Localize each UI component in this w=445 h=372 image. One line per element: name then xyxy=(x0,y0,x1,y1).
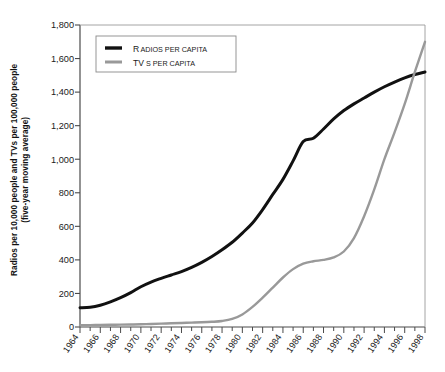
y-axis-tick-label: 600 xyxy=(59,222,74,232)
x-axis-tick-label: 1986 xyxy=(284,332,304,354)
legend-label-radios-first: R xyxy=(133,44,139,54)
x-axis-tick-label: 1980 xyxy=(223,332,243,354)
x-axis-tick-label: 1996 xyxy=(386,332,406,354)
x-axis-tick-label: 1990 xyxy=(325,332,345,354)
data-series-group xyxy=(80,42,425,326)
x-axis-tick-label: 1992 xyxy=(345,332,365,354)
series-line-tvs-per-capita xyxy=(80,42,425,326)
y-axis-tick-label: 1,000 xyxy=(51,155,74,165)
legend-label-tvs: S PER CAPITA xyxy=(146,59,195,68)
x-axis-tick-label: 1972 xyxy=(142,332,162,354)
x-axis-tick-label: 1982 xyxy=(244,332,264,354)
x-axis-tick-label: 1998 xyxy=(406,332,426,354)
x-axis-tick-label: 1966 xyxy=(81,332,101,354)
line-chart-plot: 02004006008001,0001,2001,4001,6001,800 1… xyxy=(0,0,445,372)
chart-legend: R ADIOS PER CAPITA TV S PER CAPITA xyxy=(96,36,236,72)
y-axis-tick-label: 800 xyxy=(59,188,74,198)
y-axis-tick-label: 0 xyxy=(69,322,74,332)
x-axis-tick-label: 1994 xyxy=(365,332,385,354)
y-axis-tick-marks xyxy=(75,25,80,327)
x-axis-tick-label: 1984 xyxy=(264,332,284,354)
x-axis-tick-label: 1964 xyxy=(61,332,81,354)
y-axis-tick-label: 400 xyxy=(59,255,74,265)
y-axis-tick-label: 1,800 xyxy=(51,20,74,30)
y-axis-label-line2: (five-year moving average) xyxy=(21,64,32,276)
y-axis-label: Radios per 10,000 people and TVs per 100… xyxy=(4,0,38,340)
y-axis-label-line1: Radios per 10,000 people and TVs per 100… xyxy=(10,64,19,276)
x-axis-tick-label: 1976 xyxy=(183,332,203,354)
y-axis-tick-label: 1,600 xyxy=(51,54,74,64)
y-axis-tick-label: 1,200 xyxy=(51,121,74,131)
x-axis-tick-label: 1968 xyxy=(102,332,122,354)
x-axis-tick-labels: 1964196619681970197219741976197819801982… xyxy=(61,332,426,354)
x-axis-tick-label: 1988 xyxy=(304,332,324,354)
legend-label-radios: ADIOS PER CAPITA xyxy=(141,45,208,54)
chart-figure: Radios per 10,000 people and TVs per 100… xyxy=(0,0,445,372)
y-axis-tick-label: 200 xyxy=(59,289,74,299)
y-axis-tick-label: 1,400 xyxy=(51,87,74,97)
x-axis-tick-label: 1978 xyxy=(203,332,223,354)
y-axis-tick-labels: 02004006008001,0001,2001,4001,6001,800 xyxy=(51,20,74,332)
legend-label-tvs-first: TV xyxy=(133,58,144,68)
x-axis-tick-label: 1974 xyxy=(162,332,182,354)
x-axis-tick-label: 1970 xyxy=(122,332,142,354)
x-axis-minor-ticks xyxy=(80,327,425,333)
